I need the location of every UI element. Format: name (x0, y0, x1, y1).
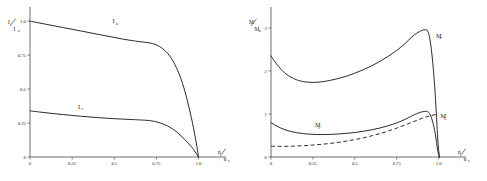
chart-left-svg: 00.250.50.751.0 00.250.50.751.0 IaIv IIa… (0, 0, 244, 181)
r-y-tick-label: 1 (265, 112, 268, 117)
r-y-tick-label: 0 (265, 155, 268, 160)
chart-panel-left: 00.250.50.751.0 00.250.50.751.0 IaIv IIa… (0, 0, 244, 181)
y-axis-label-denominator: I (14, 26, 16, 32)
l-x-axis-label: nns (218, 149, 230, 163)
y-axis-label-denominator-subscript: a (18, 29, 20, 33)
y-axis-label-denominator-subscript: n (259, 29, 261, 33)
curve-m-l (271, 114, 439, 146)
left-y-ticks: 00.250.50.751.0 (18, 19, 30, 160)
left-curves (30, 21, 199, 157)
l-y-tick-label: 0.75 (18, 53, 27, 58)
l-x-tick-label: 0.75 (152, 161, 161, 166)
r-x-tick-label: 0.75 (393, 161, 402, 166)
curve-label-i-v: Iv (78, 103, 84, 112)
chart-right-svg: 00.250.50.751.0 0123 MaMvML MMnnns (244, 0, 487, 181)
curve-label-subscript: v (81, 106, 84, 111)
curve-m-a (271, 30, 439, 157)
curve-label-main: I (78, 103, 80, 110)
curve-m-v (271, 111, 439, 157)
l-y-tick-label: 0.25 (18, 121, 27, 126)
r-y-axis-label: MMn (249, 19, 261, 34)
curve-label-subscript: a (116, 21, 118, 26)
x-axis-label-numerator: n (458, 149, 461, 155)
left-axes (30, 7, 226, 157)
curve-label-subscript: a (439, 35, 441, 40)
x-axis-label-denominator-subscript: s (228, 159, 230, 163)
l-x-tick-label: 0.5 (111, 161, 117, 166)
curve-i-v (30, 111, 199, 157)
l-x-tick-label: 0 (29, 161, 32, 166)
r-x-tick-label: 0.5 (352, 161, 358, 166)
right-curves (271, 30, 439, 157)
r-y-tick-label: 2 (265, 69, 268, 74)
r-x-tick-label: 1.0 (436, 161, 442, 166)
x-axis-label-denominator: n (224, 156, 227, 162)
curve-label-m-l: ML (441, 112, 447, 121)
x-axis-label-denominator-subscript: s (468, 159, 470, 163)
l-x-tick-label: 0.25 (68, 161, 77, 166)
l-y-tick-label: 0 (24, 155, 27, 160)
x-axis-label-denominator: n (464, 156, 467, 162)
curve-label-i-a: Ia (113, 17, 118, 26)
right-curve-labels: MaMvML (315, 32, 447, 131)
y-axis-label-numerator: M (249, 19, 254, 25)
l-y-tick-label: 0.5 (20, 87, 26, 92)
two-panel-figure: 00.250.50.751.0 00.250.50.751.0 IaIv IIa… (0, 0, 487, 181)
left-axis-labels: IIanns (8, 19, 230, 164)
curve-label-subscript: L (444, 116, 447, 121)
left-x-ticks: 00.250.50.751.0 (29, 157, 202, 166)
x-axis-label-numerator: n (218, 149, 221, 155)
chart-panel-right: 00.250.50.751.0 0123 MaMvML MMnnns (244, 0, 487, 181)
r-y-tick-label: 3 (265, 26, 268, 31)
y-axis-label-numerator: I (8, 19, 10, 25)
r-x-tick-label: 0 (270, 161, 273, 166)
curve-label-m-a: Ma (436, 32, 442, 41)
curve-label-m-v: Mv (315, 121, 321, 130)
right-y-ticks: 0123 (265, 26, 271, 160)
l-y-axis-label: IIa (8, 19, 20, 34)
r-x-axis-label: nns (458, 149, 470, 163)
curve-i-a (30, 21, 199, 157)
right-axes (271, 7, 466, 157)
curve-label-subscript: v (318, 125, 321, 130)
l-y-tick-label: 1.0 (20, 19, 26, 24)
right-x-ticks: 00.250.50.751.0 (270, 157, 442, 166)
r-x-tick-label: 0.25 (309, 161, 318, 166)
curve-label-main: I (113, 17, 115, 24)
l-x-tick-label: 1.0 (196, 161, 202, 166)
